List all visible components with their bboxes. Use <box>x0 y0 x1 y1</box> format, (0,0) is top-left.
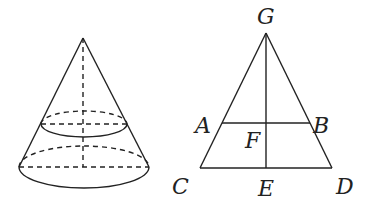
cone-left-edge <box>19 38 83 167</box>
point-labels: G A B F C E D <box>172 4 354 201</box>
label-A: A <box>193 113 211 138</box>
label-B: B <box>312 113 329 138</box>
label-C: C <box>172 174 189 199</box>
edge-GD <box>266 33 332 168</box>
label-F: F <box>244 128 261 153</box>
label-G: G <box>257 4 275 29</box>
base-ellipse-front <box>19 167 149 188</box>
cone-figure <box>19 38 149 188</box>
base-ellipse-back <box>19 146 149 167</box>
cone-right-edge <box>83 38 149 167</box>
section-ellipse-front <box>41 124 127 137</box>
diagram-canvas: G A B F C E D <box>0 0 367 213</box>
label-D: D <box>335 174 354 199</box>
triangle-figure <box>200 33 332 168</box>
label-E: E <box>257 176 274 201</box>
section-ellipse-back <box>41 111 127 124</box>
